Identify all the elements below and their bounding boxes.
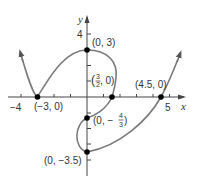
point-0-neg4thirds [84,115,90,121]
graph-canvas: y x −4 5 4 (0, 3) (−3, 0) (4.5, 0) (0, −… [0,0,199,182]
curve-arrow-left [21,53,24,62]
svg-text:, 0): , 0) [100,75,114,86]
point-1p5-0 [109,94,115,100]
curve-arrow-right [177,54,180,62]
svg-text:4: 4 [119,112,123,119]
y-axis-label: y [77,13,83,25]
label-neg3-0: (−3, 0) [34,101,63,112]
tick-label-neg4: −4 [10,102,22,113]
tick-label-5: 5 [165,102,171,113]
svg-text:): ) [124,115,127,126]
point-neg3-0 [35,94,41,100]
label-0-neg4thirds: (0, − 4 3 ) [93,112,127,128]
svg-text:(: ( [91,73,95,87]
point-0-3 [84,47,90,53]
tick-label-4: 4 [77,29,83,40]
point-4p5-0 [158,94,164,100]
label-0-neg3p5: (0, −3.5) [44,155,82,166]
x-axis-label: x [180,100,186,112]
label-4p5-0: (4.5, 0) [135,79,167,90]
point-0-neg3p5 [84,149,90,155]
svg-text:(0, −: (0, − [93,115,113,126]
label-0-3: (0, 3) [92,37,115,48]
svg-text:3: 3 [119,121,123,128]
label-3-halves-0: ( 3 2 , 0) [91,73,114,88]
